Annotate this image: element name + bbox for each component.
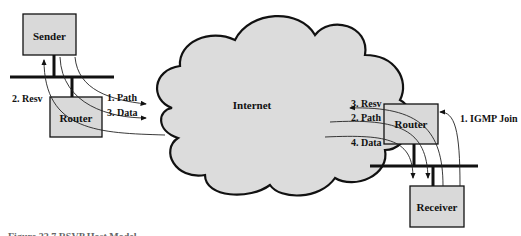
rsvp-diagram: Internet Sender Router 1. Path 2. Resv 3… [0,0,521,236]
cloud-label: Internet [233,99,272,111]
right-flow-resv: 3. Resv [351,98,382,109]
left-flow-path: 1. Path [107,92,137,103]
sender-label: Sender [33,30,66,42]
left-flow-resv: 2. Resv [12,93,43,104]
right-flow-data: 4. Data [351,137,382,148]
left-flow-data: 3. Data [107,107,138,118]
receiver-label: Receiver [417,201,458,213]
right-flow-path: 2. Path [351,112,381,123]
figure-caption: Figure 22.7 RSVP Host Model [8,231,137,236]
right-flow-igmp: 1. IGMP Join [460,113,518,124]
